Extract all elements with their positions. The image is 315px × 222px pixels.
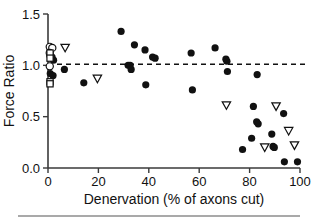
data-point-open-square	[47, 55, 53, 61]
data-point-filled-circle	[61, 66, 68, 73]
x-tick-label: 20	[91, 174, 105, 189]
data-point-filled-circle	[117, 28, 124, 35]
x-tick-label: 40	[142, 174, 156, 189]
data-point-filled-circle	[128, 66, 135, 73]
x-axis-title: Denervation (% of axons cut)	[84, 191, 265, 207]
data-point-open-circle	[46, 63, 53, 70]
data-point-open-triangle-down	[93, 75, 101, 83]
y-tick-label: 1.0	[22, 58, 40, 73]
data-point-filled-circle	[255, 120, 262, 127]
data-point-open-triangle-down	[284, 127, 292, 135]
data-point-filled-circle	[271, 144, 278, 151]
data-point-filled-circle	[239, 146, 246, 153]
data-point-filled-circle	[294, 158, 301, 165]
scatter-plot: 0.00.51.01.5020406080100Denervation (% o…	[0, 0, 315, 222]
data-point-filled-circle	[211, 44, 218, 51]
data-point-filled-circle	[189, 86, 196, 93]
data-point-filled-circle	[248, 135, 255, 142]
data-point-open-triangle-down	[290, 142, 298, 150]
data-point-filled-circle	[224, 68, 231, 75]
y-tick-label: 1.5	[22, 7, 40, 22]
figure-container: 0.00.51.01.5020406080100Denervation (% o…	[0, 0, 315, 222]
x-tick-label: 80	[242, 174, 256, 189]
y-axis-title: Force Ratio	[1, 55, 17, 128]
data-point-open-triangle-down	[272, 103, 280, 111]
data-point-filled-circle	[280, 110, 287, 117]
data-point-filled-circle	[141, 46, 148, 53]
data-point-filled-circle	[250, 103, 257, 110]
data-point-filled-circle	[152, 55, 159, 62]
data-point-open-triangle-down	[261, 144, 269, 152]
y-tick-label: 0.0	[22, 161, 40, 176]
data-point-filled-circle	[281, 158, 288, 165]
data-point-filled-circle	[254, 71, 261, 78]
x-tick-label: 0	[44, 174, 51, 189]
y-tick-label: 0.5	[22, 109, 40, 124]
data-point-open-square	[47, 81, 53, 87]
data-point-filled-circle	[268, 131, 275, 138]
data-point-open-triangle-down	[61, 44, 69, 52]
data-point-filled-circle	[80, 79, 87, 86]
data-point-filled-circle	[142, 81, 149, 88]
data-point-filled-circle	[223, 58, 230, 65]
x-tick-label: 100	[289, 174, 311, 189]
data-point-filled-circle	[188, 49, 195, 56]
x-tick-label: 60	[192, 174, 206, 189]
data-point-open-triangle-down	[222, 102, 230, 110]
series-open-triangle-down	[61, 44, 299, 151]
data-point-filled-circle	[131, 41, 138, 48]
